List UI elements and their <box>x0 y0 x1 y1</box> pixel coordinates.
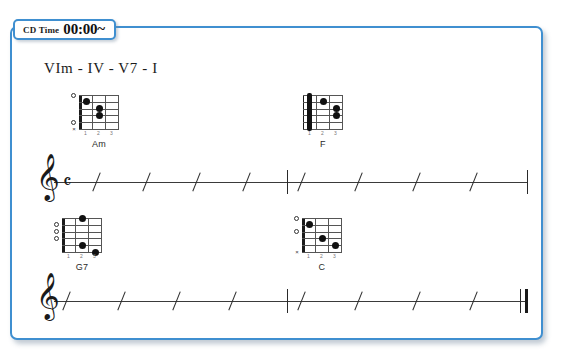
finger-dot <box>96 112 103 119</box>
fret-number: 2 <box>80 253 83 259</box>
time-signature-common: 𝄴 <box>63 172 72 191</box>
open-string-marker <box>71 120 76 125</box>
fret-number: 2 <box>97 130 100 136</box>
nut-line <box>302 218 305 252</box>
cd-time-badge: CD Time 00:00~ <box>13 19 116 40</box>
treble-clef-icon: 𝄞 <box>36 156 60 196</box>
staff-system-2: 𝄞 <box>36 279 528 325</box>
fret-number: 1 <box>308 130 311 136</box>
chord-diagram-f: 1 2 3 F <box>303 95 343 129</box>
chord-diagram-g7: 1 2 3 G7 <box>62 218 102 252</box>
finger-dot <box>332 242 339 249</box>
fret-line <box>101 218 102 252</box>
fret-number: 1 <box>67 253 70 259</box>
finger-dot <box>83 98 90 105</box>
fret-line <box>341 218 342 252</box>
barline <box>287 170 288 194</box>
muted-string-marker: × <box>294 249 300 255</box>
fret-line <box>316 95 317 129</box>
string-line <box>62 232 102 233</box>
finger-dot <box>320 98 327 105</box>
cd-time-label: CD Time <box>23 25 59 35</box>
chord-name: F <box>293 139 353 149</box>
chord-grid: × 1 2 3 <box>79 95 119 129</box>
string-line <box>62 225 102 226</box>
chord-diagram-c: × 1 2 3 C <box>302 218 342 252</box>
fret-line <box>328 218 329 252</box>
chord-name: G7 <box>52 262 112 272</box>
open-string-marker <box>294 216 299 221</box>
chord-diagram-am: × 1 2 3 Am <box>79 95 119 129</box>
string-line <box>79 122 119 123</box>
barre-bar <box>307 93 312 131</box>
chord-name: Am <box>69 139 129 149</box>
chord-name: C <box>292 262 352 272</box>
cd-time-value: 00:00~ <box>63 22 105 37</box>
chord-grid: 1 2 3 <box>303 95 343 129</box>
treble-clef-icon: 𝄞 <box>36 275 60 315</box>
barline-end <box>527 170 528 194</box>
fret-line <box>342 95 343 129</box>
staff-line <box>54 301 528 302</box>
fret-number: 1 <box>84 130 87 136</box>
muted-string-marker: × <box>71 126 77 132</box>
fret-line <box>92 95 93 129</box>
chord-grid: × 1 2 3 <box>302 218 342 252</box>
fret-number: 3 <box>110 130 113 136</box>
fret-line <box>88 218 89 252</box>
finger-dot <box>306 221 313 228</box>
fret-number: 3 <box>333 253 336 259</box>
fret-line <box>105 95 106 129</box>
fret-number: 3 <box>93 253 96 259</box>
string-line <box>79 95 119 96</box>
finger-dot <box>79 242 86 249</box>
nut-line <box>79 95 82 129</box>
staff-line <box>54 182 528 183</box>
fret-number: 2 <box>321 130 324 136</box>
final-barline-thin <box>520 289 521 313</box>
fret-line <box>118 95 119 129</box>
final-barline-thick <box>525 289 528 313</box>
nut-line <box>62 218 65 252</box>
score-page: CD Time 00:00~ VIm - IV - V7 - I × 1 2 3 <box>0 0 561 364</box>
fret-line <box>75 218 76 252</box>
staff-system-1: 𝄞 𝄴 <box>36 160 528 206</box>
open-string-marker <box>71 93 76 98</box>
fret-number: 1 <box>307 253 310 259</box>
fret-number: 3 <box>334 130 337 136</box>
string-line <box>302 232 342 233</box>
fret-line <box>315 218 316 252</box>
finger-dot <box>319 235 326 242</box>
barline <box>287 289 288 313</box>
fret-number: 2 <box>320 253 323 259</box>
string-line <box>62 238 102 239</box>
chord-grid: 1 2 3 <box>62 218 102 252</box>
finger-dot <box>79 215 86 222</box>
string-line <box>302 218 342 219</box>
nut-line <box>303 95 304 129</box>
progression-title: VIm - IV - V7 - I <box>44 60 158 77</box>
open-string-marker <box>54 236 59 241</box>
fret-line <box>329 95 330 129</box>
finger-dot <box>333 112 340 119</box>
